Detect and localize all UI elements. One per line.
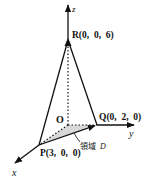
region-label-var: D xyxy=(99,142,106,151)
tetrahedron-diagram: z y x R(0, 0, 6) Q(0, 2, 0) P(3, 0, 0) O… xyxy=(0,0,163,182)
region-label-prefix: 領域 xyxy=(80,141,96,151)
point-q-label: Q(0, 2, 0) xyxy=(99,112,141,123)
z-axis-label: z xyxy=(71,4,76,14)
region-label: 領域 D xyxy=(80,141,106,151)
point-r-label: R(0, 0, 6) xyxy=(72,30,114,41)
point-p-label: P(3, 0, 0) xyxy=(40,148,81,159)
r-arrow-icon xyxy=(65,38,72,46)
y-axis-label: y xyxy=(128,128,134,139)
region-leader-line xyxy=(74,133,80,142)
x-axis-label: x xyxy=(11,167,17,178)
origin-label: O xyxy=(56,114,64,125)
edge-r-q xyxy=(68,40,97,125)
x-axis xyxy=(15,145,39,163)
